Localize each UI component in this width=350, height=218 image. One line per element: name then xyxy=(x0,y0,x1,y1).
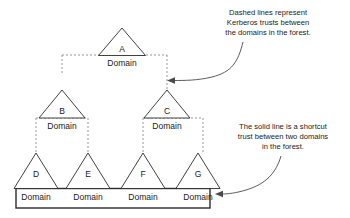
node-label-f: F xyxy=(140,169,145,179)
annotation-dashed-line-1: Dashed lines represent xyxy=(229,8,308,17)
annotation-solid-line-1: The solid line is a shortcut xyxy=(239,122,328,131)
annotation-dashed-arrow xyxy=(167,42,243,84)
diagram-canvas: A Domain B Domain C Domain D Domain E Do… xyxy=(0,0,350,218)
arrow-curve-dashed-note xyxy=(173,42,243,81)
node-label-d: D xyxy=(33,169,39,179)
node-label-e: E xyxy=(85,169,91,179)
trust-diagram: A Domain B Domain C Domain D Domain E Do… xyxy=(0,0,350,218)
annotation-solid-arrow xyxy=(215,156,281,197)
annotation-dashed-line-3: the domains in the forest. xyxy=(225,28,310,37)
domain-label-c: Domain xyxy=(152,121,182,131)
node-label-c: C xyxy=(164,106,170,116)
domain-label-a: Domain xyxy=(107,58,137,68)
annotation-solid-line-3: in the forest. xyxy=(262,142,304,151)
domain-node-a[interactable]: A Domain xyxy=(99,28,146,68)
domain-node-e[interactable]: E Domain xyxy=(66,153,110,202)
domain-node-b[interactable]: B Domain xyxy=(39,90,85,131)
annotation-dashed-note: Dashed lines represent Kerberos trusts b… xyxy=(225,8,310,37)
node-label-g: G xyxy=(195,169,202,179)
annotation-solid-line-2: trust between two domains xyxy=(238,132,329,141)
arrow-curve-solid-note xyxy=(222,156,281,194)
domain-node-f[interactable]: F Domain xyxy=(121,153,165,202)
domain-node-c[interactable]: C Domain xyxy=(144,90,190,131)
annotation-dashed-line-2: Kerberos trusts between xyxy=(227,18,309,27)
node-label-a: A xyxy=(119,44,125,54)
domain-node-d[interactable]: D Domain xyxy=(14,153,58,202)
domain-label-d: Domain xyxy=(21,192,51,202)
domain-label-e: Domain xyxy=(73,192,103,202)
domain-label-g: Domain xyxy=(183,192,213,202)
node-label-b: B xyxy=(59,106,65,116)
domain-label-b: Domain xyxy=(47,121,77,131)
arrow-head-dashed-note xyxy=(167,77,175,83)
arrow-head-solid-note xyxy=(215,191,223,197)
domain-node-g[interactable]: G Domain xyxy=(176,153,220,202)
domain-label-f: Domain xyxy=(128,192,158,202)
annotation-solid-note: The solid line is a shortcut trust betwe… xyxy=(238,122,329,151)
